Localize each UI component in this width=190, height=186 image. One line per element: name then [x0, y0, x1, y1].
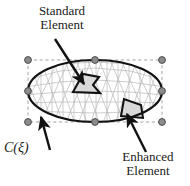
control-point-mid-right	[159, 88, 166, 95]
standard-element-label-line1: Standard	[14, 4, 110, 18]
enhanced-element-label-line1: Enhanced	[106, 150, 190, 164]
enhanced-element-arrow	[127, 114, 146, 152]
enhanced-element-label: Enhanced Element	[106, 150, 190, 178]
control-point-bottom-center	[92, 119, 99, 126]
control-point-top-center	[92, 57, 99, 64]
control-point-top-right	[159, 57, 166, 64]
isogeometric-mesh-figure: Standard Element Enhanced Element C(ξ)	[0, 0, 190, 186]
control-point-top-left	[25, 57, 32, 64]
boundary-curve-label: C(ξ)	[4, 140, 29, 156]
enhanced-element-label-line2: Element	[106, 164, 190, 178]
control-point-mid-left	[25, 88, 32, 95]
standard-element-label: Standard Element	[14, 4, 110, 32]
standard-element-label-line2: Element	[14, 18, 110, 32]
control-point-bottom-left	[25, 119, 32, 126]
control-point-bottom-right	[159, 119, 166, 126]
